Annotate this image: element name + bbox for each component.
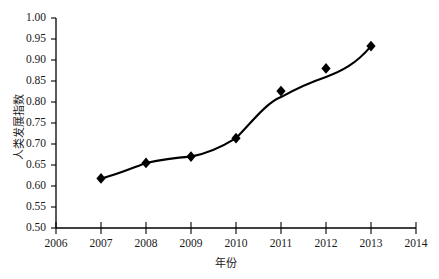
x-tick-label-2013: 2013 bbox=[349, 238, 393, 250]
x-tick-label-2007: 2007 bbox=[79, 238, 123, 250]
data-point-2007 bbox=[96, 173, 105, 184]
y-tick-label-8: 0.60 bbox=[13, 180, 46, 192]
data-point-2009 bbox=[186, 151, 195, 162]
data-line-series-1 bbox=[101, 46, 371, 178]
x-tick-label-2014: 2014 bbox=[394, 238, 438, 250]
y-tick-label-7: 0.65 bbox=[13, 159, 46, 171]
data-point-2012 bbox=[321, 63, 330, 74]
x-tick-label-2009: 2009 bbox=[169, 238, 213, 250]
x-axis-title: 年份 bbox=[204, 258, 248, 269]
y-tick-label-1: 0.95 bbox=[13, 33, 46, 45]
data-markers bbox=[96, 41, 375, 184]
x-tick-label-2011: 2011 bbox=[259, 238, 303, 250]
x-tick-label-2010: 2010 bbox=[214, 238, 258, 250]
y-tick-label-3: 0.85 bbox=[13, 75, 46, 87]
y-axis-ticks bbox=[51, 18, 56, 228]
y-tick-label-0: 1.00 bbox=[13, 12, 46, 24]
y-tick-label-10: 0.50 bbox=[13, 222, 46, 234]
x-tick-label-2012: 2012 bbox=[304, 238, 348, 250]
chart-container: 1.00 0.95 0.90 0.85 0.80 0.75 0.70 0.65 … bbox=[0, 0, 439, 279]
y-axis-title: 人类发展指数 bbox=[14, 94, 25, 160]
y-tick-label-9: 0.55 bbox=[13, 201, 46, 213]
y-tick-label-2: 0.90 bbox=[13, 54, 46, 66]
x-tick-label-2008: 2008 bbox=[124, 238, 168, 250]
data-point-2008 bbox=[141, 158, 150, 169]
x-tick-label-2006: 2006 bbox=[34, 238, 78, 250]
